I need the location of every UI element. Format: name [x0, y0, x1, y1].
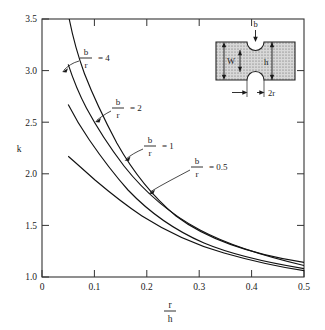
x-tick-label-4: 0.4	[246, 282, 258, 292]
inset-label-w: W	[227, 56, 235, 66]
annotation-4-value: = 4	[98, 53, 110, 63]
y-tick-label-5: 3.5	[25, 14, 37, 24]
annotation-1-denominator: r	[149, 148, 152, 158]
x-tick-label-1: 0.1	[88, 282, 100, 292]
x-axis-title-denominator: h	[168, 314, 173, 324]
x-tick-label-3: 0.3	[193, 282, 205, 292]
annotation-05-value: = 0.5	[209, 162, 228, 172]
chart-figure-root: 1.0 1.5 2.0 2.5 3.0 3.5 0 0.1 0.2 0.3 0.…	[0, 0, 325, 330]
x-tick-label-2: 0.2	[141, 282, 153, 292]
y-tick-label-1: 1.5	[25, 221, 37, 231]
y-tick-label-4: 3.0	[25, 66, 37, 76]
annotation-1-value: = 1	[162, 141, 174, 151]
inset-label-b: b	[253, 19, 257, 29]
annotation-4-denominator: r	[85, 60, 88, 70]
y-axis-title: k	[17, 144, 22, 154]
annotation-05-numerator: b	[195, 156, 200, 166]
y-tick-label-3: 2.5	[25, 118, 37, 128]
x-axis-title-numerator: r	[168, 300, 172, 310]
annotation-2-value: = 2	[130, 103, 142, 113]
x-tick-label-5: 0.5	[298, 282, 310, 292]
annotation-05-denominator: r	[196, 169, 199, 179]
y-tick-label-2: 2.0	[25, 169, 37, 179]
annotation-2-numerator: b	[116, 97, 121, 107]
annotation-1-numerator: b	[148, 135, 153, 145]
inset-label-2r: 2r	[268, 88, 275, 98]
annotation-2-denominator: r	[117, 110, 120, 120]
y-tick-label-0: 1.0	[25, 272, 37, 282]
x-axis-title: r h	[164, 300, 176, 324]
x-tick-label-0: 0	[40, 282, 45, 292]
annotation-4-numerator: b	[84, 47, 89, 57]
stress-concentration-chart: 1.0 1.5 2.0 2.5 3.0 3.5 0 0.1 0.2 0.3 0.…	[0, 0, 325, 330]
